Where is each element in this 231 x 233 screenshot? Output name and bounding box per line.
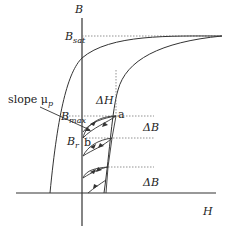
arrowheads — [90, 121, 108, 189]
b-r-label: Br — [66, 135, 80, 150]
h-axis-label: H — [202, 205, 213, 218]
slope-mu-p-label: slope μp — [8, 93, 53, 108]
b-sat-label: Bsat — [64, 30, 86, 45]
point-b-label: b — [84, 136, 91, 149]
b-axis-label: B — [74, 3, 83, 16]
delta-h-label: ΔH — [95, 94, 114, 107]
hysteresis-diagram: B H Bsat Bmax Br slope μp ΔH ΔB ΔB a b — [0, 0, 231, 233]
point-a-label: a — [118, 108, 125, 121]
minor-loops — [83, 116, 116, 193]
delta-b-lower-label: ΔB — [142, 176, 159, 189]
delta-b-upper-label: ΔB — [142, 121, 159, 134]
outer-loop-descending — [50, 36, 222, 193]
